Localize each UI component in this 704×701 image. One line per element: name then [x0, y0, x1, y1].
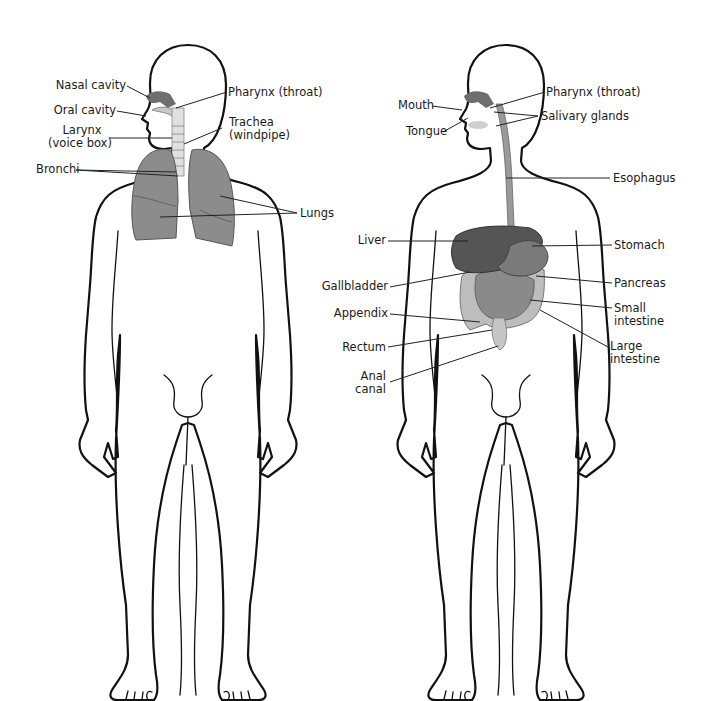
label-oral-cavity: Oral cavity	[20, 104, 116, 117]
label-pancreas: Pancreas	[614, 277, 666, 290]
label-liver: Liver	[340, 234, 386, 247]
label-stomach: Stomach	[614, 239, 665, 252]
label-anal-canal: canal	[340, 383, 386, 396]
label-large-intestine: intestine	[610, 353, 660, 366]
label-rectum: Rectum	[330, 341, 386, 354]
respiratory-figure	[80, 45, 297, 700]
label-salivary-glands: Salivary glands	[541, 110, 629, 123]
label-nasal-cavity: Nasal cavity	[30, 79, 126, 92]
label-lungs: Lungs	[300, 207, 334, 220]
label-windpipe: (windpipe)	[229, 129, 290, 142]
label-gallbladder: Gallbladder	[310, 280, 388, 293]
label-pharynx-right: Pharynx (throat)	[546, 86, 640, 99]
label-bronchi: Bronchi	[36, 163, 80, 176]
digestive-figure	[398, 45, 615, 700]
label-tongue: Tongue	[406, 125, 447, 138]
label-appendix: Appendix	[320, 307, 388, 320]
label-mouth: Mouth	[398, 99, 434, 112]
label-voice-box: (voice box)	[48, 137, 112, 150]
label-small-intestine: intestine	[614, 315, 664, 328]
label-pharynx-left: Pharynx (throat)	[228, 86, 322, 99]
label-esophagus: Esophagus	[613, 172, 676, 185]
